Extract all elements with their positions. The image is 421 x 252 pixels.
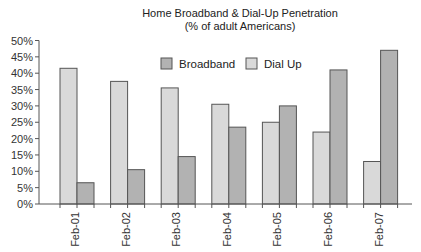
legend-item-dial-up: Dial Up <box>246 58 302 70</box>
bar-dial-up <box>364 161 381 204</box>
bar-group-feb-05 <box>262 106 296 204</box>
x-tick-label: Feb-05 <box>271 212 283 247</box>
bar-broadband <box>128 170 145 204</box>
legend-label-dial-up: Dial Up <box>264 58 302 70</box>
bar-dial-up <box>262 122 279 204</box>
bar-group-feb-01 <box>60 68 94 204</box>
y-tick-label: 50% <box>11 35 33 47</box>
legend-swatch-broadband <box>161 58 172 69</box>
x-tick-label: Feb-02 <box>120 212 132 247</box>
y-tick-label: 5% <box>17 182 33 194</box>
y-axis: 0%5%10%15%20%25%30%35%40%45%50% <box>11 35 39 211</box>
x-axis: Feb-01Feb-02Feb-03Feb-04Feb-05Feb-06Feb-… <box>39 204 412 247</box>
y-tick-label: 45% <box>11 51 33 63</box>
y-tick-label: 20% <box>11 133 33 145</box>
bar-group-feb-03 <box>161 88 195 204</box>
legend-item-broadband: Broadband <box>161 58 235 70</box>
chart-container: Home Broadband & Dial-Up Penetration (% … <box>0 0 421 252</box>
bar-dial-up <box>161 88 178 204</box>
legend: Broadband Dial Up <box>161 58 302 70</box>
y-tick-label: 35% <box>11 84 33 96</box>
bar-group-feb-02 <box>111 81 145 204</box>
bar-dial-up <box>313 132 330 204</box>
y-tick-label: 30% <box>11 100 33 112</box>
bar-dial-up <box>111 81 128 204</box>
bar-chart: Home Broadband & Dial-Up Penetration (% … <box>0 0 421 252</box>
y-tick-label: 40% <box>11 67 33 79</box>
bar-group-feb-06 <box>313 70 347 204</box>
x-tick-label: Feb-04 <box>221 212 233 247</box>
chart-title: Home Broadband & Dial-Up Penetration <box>142 7 338 19</box>
bar-broadband <box>178 157 195 204</box>
bar-broadband <box>381 50 398 204</box>
y-tick-label: 10% <box>11 165 33 177</box>
legend-label-broadband: Broadband <box>179 58 235 70</box>
x-tick-label: Feb-07 <box>373 212 385 247</box>
bar-broadband <box>77 183 94 204</box>
bar-group-feb-04 <box>212 104 246 204</box>
legend-swatch-dial-up <box>246 58 257 69</box>
bar-broadband <box>330 70 347 204</box>
bar-dial-up <box>212 104 229 204</box>
y-tick-label: 0% <box>17 198 33 210</box>
bar-broadband <box>279 106 296 204</box>
y-tick-label: 15% <box>11 149 33 161</box>
bar-group-feb-07 <box>364 50 398 204</box>
bars <box>60 50 398 204</box>
bar-dial-up <box>60 68 77 204</box>
y-tick-label: 25% <box>11 116 33 128</box>
x-tick-label: Feb-01 <box>69 212 81 247</box>
chart-subtitle: (% of adult Americans) <box>185 20 296 32</box>
bar-broadband <box>229 127 246 204</box>
x-tick-label: Feb-06 <box>322 212 334 247</box>
x-tick-label: Feb-03 <box>170 212 182 247</box>
